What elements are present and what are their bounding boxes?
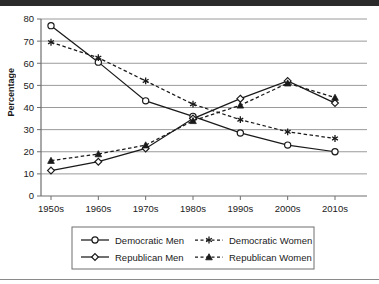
series-democratic-women [48, 39, 338, 142]
data-point-marker-filled-triangle [142, 142, 149, 148]
x-tick-label: 2010s [322, 203, 348, 214]
data-point-marker-open-circle [48, 23, 54, 29]
gridlines [41, 19, 367, 174]
chart-legend: Democratic MenRepublican MenDemocratic W… [72, 227, 314, 269]
chart-figure: Percentage 01020304050607080 1950s1960s1… [0, 0, 379, 284]
y-axis-ticks: 01020304050607080 [23, 13, 41, 201]
series-democratic-men [48, 23, 338, 155]
data-point-marker-open-diamond [95, 158, 102, 165]
bottom-divider-rule [0, 279, 379, 280]
series-line [51, 81, 335, 171]
data-point-marker-asterisk [143, 78, 149, 85]
legend-box [72, 227, 314, 269]
x-tick-label: 1950s [38, 203, 64, 214]
data-point-marker-asterisk [48, 39, 54, 46]
data-point-marker-open-circle [143, 98, 149, 104]
x-tick-label: 1980s [180, 203, 206, 214]
data-point-marker-open-circle [332, 149, 338, 155]
y-tick-label: 30 [23, 124, 34, 135]
data-point-marker-open-diamond [48, 167, 55, 174]
x-tick-label: 2000s [275, 203, 301, 214]
data-point-marker-open-circle [237, 130, 243, 136]
legend-label: Republican Women [229, 252, 312, 263]
x-tick-label: 1990s [227, 203, 253, 214]
y-tick-label: 40 [23, 102, 34, 113]
series-republican-women [48, 80, 339, 164]
series-republican-men [48, 78, 339, 174]
y-tick-label: 70 [23, 36, 34, 47]
x-tick-label: 1970s [133, 203, 159, 214]
y-tick-label: 80 [23, 13, 34, 24]
legend-label: Democratic Women [229, 235, 312, 246]
data-point-marker-filled-triangle [332, 94, 339, 100]
data-point-marker-open-circle [285, 142, 291, 148]
y-tick-label: 60 [23, 58, 34, 69]
y-tick-label: 20 [23, 146, 34, 157]
x-axis-ticks: 1950s1960s1970s1980s1990s2000s2010s [38, 196, 348, 214]
data-point-marker-asterisk [190, 101, 196, 108]
x-tick-label: 1960s [85, 203, 111, 214]
data-point-marker-filled-triangle [237, 102, 244, 108]
y-tick-label: 10 [23, 168, 34, 179]
line-chart-plot: 01020304050607080 1950s1960s1970s1980s19… [0, 0, 379, 284]
data-point-marker-asterisk [332, 135, 338, 142]
y-tick-label: 50 [23, 80, 34, 91]
series-line [51, 42, 335, 138]
data-series-group [48, 23, 339, 174]
legend-label: Republican Men [115, 252, 184, 263]
data-point-marker-open-diamond [237, 95, 244, 102]
y-tick-label: 0 [29, 190, 34, 201]
data-point-marker-open-circle [92, 237, 98, 243]
legend-label: Democratic Men [115, 235, 184, 246]
